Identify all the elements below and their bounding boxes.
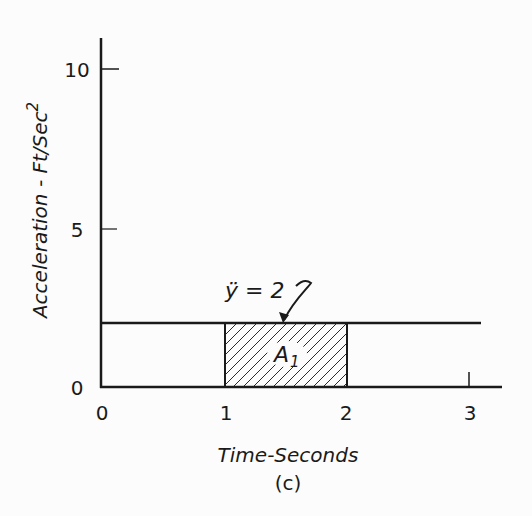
x-tick-label-0: 0 — [96, 401, 109, 425]
figure-caption: (c) — [275, 471, 302, 495]
x-tick-label-3: 3 — [464, 401, 477, 425]
x-axis-label: Time-Seconds — [218, 443, 359, 467]
y-axis-label: Acceleration - Ft/Sec2 — [24, 102, 52, 320]
svg-text:Acceleration - Ft/Sec2: Acceleration - Ft/Sec2 — [24, 102, 52, 320]
annotation-label: ÿ = 2 — [224, 278, 284, 303]
y-tick-label-10: 10 — [64, 58, 89, 82]
x-tick-label-2: 2 — [340, 401, 353, 425]
y-axis-label-text: Acceleration - Ft/Sec — [28, 111, 52, 320]
chart-canvas: 10 5 0 0 1 2 3 Acceleration - Ft/Sec2 Ti… — [0, 0, 532, 516]
annotation-arrow — [284, 281, 311, 320]
x-tick-label-1: 1 — [220, 401, 233, 425]
y-axis-label-superscript: 2 — [24, 102, 42, 112]
y-tick-label-0: 0 — [71, 376, 84, 400]
y-tick-label-5: 5 — [71, 218, 84, 242]
